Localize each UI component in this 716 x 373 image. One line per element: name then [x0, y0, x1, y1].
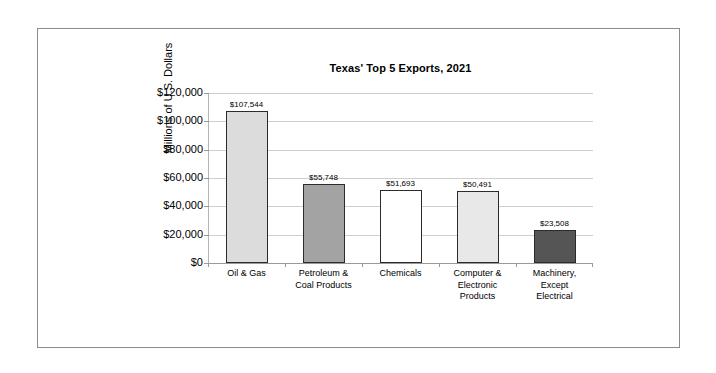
y-tick-mark — [204, 121, 209, 122]
x-tick-mark — [439, 263, 440, 267]
x-category-label-line: Computer & — [439, 268, 516, 280]
y-tick-label: $0 — [113, 257, 203, 268]
bar[interactable] — [457, 191, 499, 263]
x-category-label: Oil & Gas — [208, 268, 285, 280]
y-tick-mark — [204, 93, 209, 94]
x-category-label: Computer &ElectronicProducts — [439, 268, 516, 303]
x-axis: Oil & GasPetroleum &Coal ProductsChemica… — [208, 263, 593, 323]
x-tick-mark — [516, 263, 517, 267]
x-category-label-line: Electrical — [516, 291, 593, 303]
bar[interactable] — [380, 190, 422, 263]
y-tick-label: $80,000 — [113, 144, 203, 155]
y-tick-mark — [204, 150, 209, 151]
y-tick-label: $100,000 — [113, 115, 203, 126]
chart-title: Texas' Top 5 Exports, 2021 — [208, 62, 593, 74]
y-tick-mark — [204, 178, 209, 179]
x-category-label-line: Chemicals — [362, 268, 439, 280]
bar-value-label: $107,544 — [207, 100, 287, 109]
plot-area: $107,544$55,748$51,693$50,491$23,508 — [208, 93, 593, 263]
bar-value-label: $51,693 — [361, 179, 441, 188]
gridline — [208, 93, 593, 94]
bar[interactable] — [534, 230, 576, 263]
y-tick-label: $40,000 — [113, 200, 203, 211]
bar-value-label: $23,508 — [515, 219, 595, 228]
bar-value-label: $55,748 — [284, 173, 364, 182]
bar-value-label: $50,491 — [438, 180, 518, 189]
x-tick-mark — [362, 263, 363, 267]
y-tick-mark — [204, 235, 209, 236]
x-category-label-line: Electronic — [439, 280, 516, 292]
y-tick-label: $60,000 — [113, 172, 203, 183]
x-category-label-line: Petroleum & — [285, 268, 362, 280]
x-tick-mark — [592, 263, 593, 267]
y-tick-label: $20,000 — [113, 229, 203, 240]
x-category-label: Machinery,ExceptElectrical — [516, 268, 593, 303]
x-category-label-line: Machinery, — [516, 268, 593, 280]
chart-page: Texas' Top 5 Exports, 2021 Millions of U… — [0, 0, 716, 373]
x-category-label: Chemicals — [362, 268, 439, 280]
x-category-label-line: Except — [516, 280, 593, 292]
x-category-label-line: Coal Products — [285, 280, 362, 292]
x-tick-mark — [208, 263, 209, 267]
bar[interactable] — [303, 184, 345, 263]
x-category-label: Petroleum &Coal Products — [285, 268, 362, 291]
y-tick-mark — [204, 206, 209, 207]
x-category-label-line: Oil & Gas — [208, 268, 285, 280]
y-axis-tick-labels: $0$20,000$40,000$60,000$80,000$100,000$1… — [110, 93, 203, 263]
y-tick-label: $120,000 — [113, 87, 203, 98]
x-category-label-line: Products — [439, 291, 516, 303]
bar[interactable] — [226, 111, 268, 263]
x-tick-mark — [285, 263, 286, 267]
